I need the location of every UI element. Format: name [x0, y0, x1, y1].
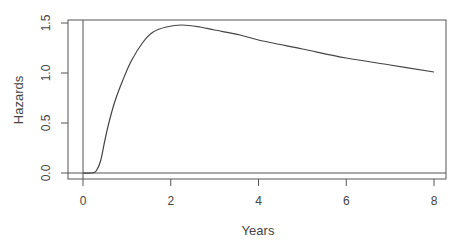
- y-axis-title: Hazards: [11, 75, 26, 124]
- x-tick-label: 4: [255, 194, 262, 208]
- hazard-curve: [83, 25, 434, 173]
- x-tick-label: 6: [343, 194, 350, 208]
- x-axis-title: Years: [242, 223, 275, 238]
- x-axis: 02468: [80, 179, 438, 208]
- y-tick-label: 0.0: [39, 164, 53, 181]
- x-tick-label: 0: [80, 194, 87, 208]
- y-tick-label: 1.5: [39, 14, 53, 31]
- y-tick-label: 0.5: [39, 114, 53, 131]
- x-tick-label: 2: [167, 194, 174, 208]
- hazard-chart: 02468 0.00.51.01.5 Years Hazards: [0, 0, 461, 246]
- y-axis: 0.00.51.01.5: [39, 14, 68, 181]
- plot-box: [68, 20, 446, 179]
- y-tick-label: 1.0: [39, 64, 53, 81]
- x-tick-label: 8: [431, 194, 438, 208]
